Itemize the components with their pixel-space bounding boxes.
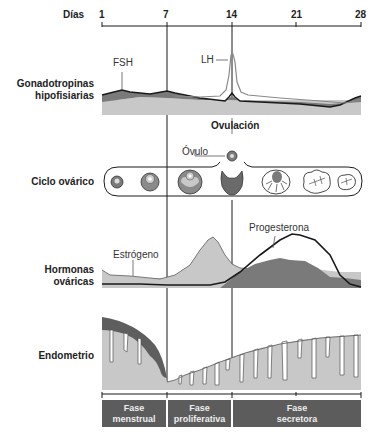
menstrual-cycle-diagram (0, 0, 372, 440)
phase-secretory-line1: Fase (233, 403, 361, 414)
phase-proliferative-line2: proliferativa (168, 414, 231, 425)
phase-menstrual: Fase menstrual (102, 400, 166, 427)
row-label-endometrium: Endometrio (2, 350, 94, 362)
row-label-ovarian-hormones: Hormonas ováricas (2, 264, 94, 288)
phase-secretory-line2: secretora (233, 414, 361, 425)
primary-follicle-icon (141, 173, 159, 191)
phase-bracket (102, 392, 361, 398)
secondary-follicle-icon (178, 170, 202, 194)
primordial-follicle-icon (111, 176, 123, 188)
phase-menstrual-line2: menstrual (102, 414, 166, 425)
ovum-icon (227, 151, 237, 161)
estrogen-label: Estrógeno (113, 249, 159, 260)
ovulation-label: Ovulación (211, 120, 259, 131)
fsh-label: FSH (113, 57, 133, 68)
corpus-albicans-icon (304, 170, 331, 193)
ovum-label: Óvulo (182, 146, 208, 157)
phase-secretory: Fase secretora (233, 400, 361, 427)
lh-label: LH (201, 54, 214, 65)
row-label-ovarian-cycle: Ciclo ovárico (2, 176, 94, 188)
corpus-luteum-icon (262, 170, 290, 194)
progesterone-label: Progesterona (249, 222, 309, 233)
phase-proliferative-line1: Fase (168, 403, 231, 414)
corpus-albicans-small-icon (338, 175, 356, 190)
row-label-gonadotropins: Gonadotropinas hipofisiarias (2, 78, 94, 102)
phase-proliferative: Fase proliferativa (168, 400, 231, 427)
phase-menstrual-line1: Fase (102, 403, 166, 414)
ruptured-follicle-icon (221, 171, 243, 195)
